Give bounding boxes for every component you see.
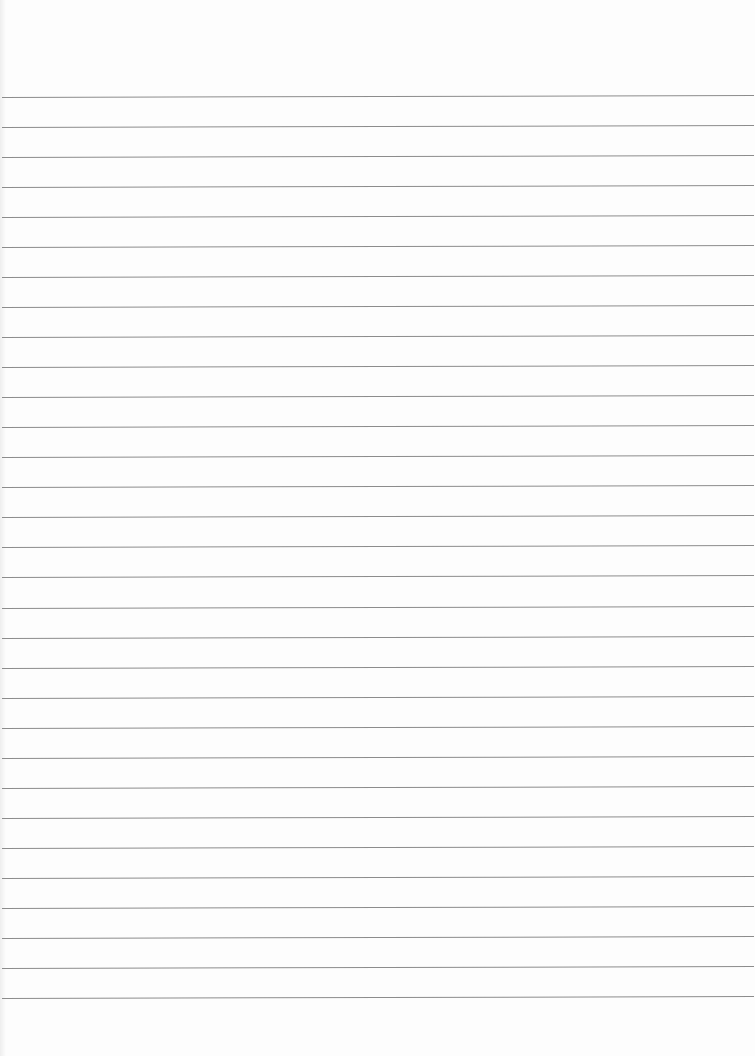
ruled-line [2, 756, 754, 759]
ruled-line [2, 575, 754, 578]
ruled-line [2, 155, 754, 158]
ruled-line [2, 846, 754, 849]
ruled-line [2, 515, 754, 518]
ruled-line [2, 906, 754, 909]
ruled-line [2, 395, 754, 398]
ruled-line [2, 666, 754, 669]
ruled-line [2, 365, 754, 368]
ruled-line [2, 425, 754, 428]
ruled-line [2, 305, 754, 308]
ruled-line [2, 185, 754, 188]
ruled-line [2, 215, 754, 218]
ruled-line [2, 726, 754, 729]
ruled-line [2, 455, 754, 458]
ruled-line [2, 786, 754, 789]
ruled-line [2, 936, 754, 939]
ruled-line [2, 245, 754, 248]
ruled-line [2, 696, 754, 699]
page-edge-shadow [0, 0, 6, 1056]
ruled-line [2, 275, 754, 278]
ruled-line [2, 335, 754, 338]
ruled-line [2, 876, 754, 879]
ruled-line [2, 996, 754, 999]
ruled-line [2, 485, 754, 488]
ruled-line [2, 545, 754, 548]
ruled-line [2, 95, 754, 98]
lined-paper-page [0, 0, 755, 1056]
ruled-line [2, 606, 754, 609]
ruled-line [2, 636, 754, 639]
ruled-line [2, 125, 754, 128]
ruled-line [2, 816, 754, 819]
ruled-line [2, 966, 754, 969]
